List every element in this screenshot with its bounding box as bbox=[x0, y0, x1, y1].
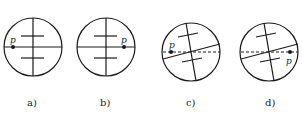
panel-d-point-label: p bbox=[286, 56, 292, 66]
panel-c-caption: c) bbox=[186, 97, 196, 108]
panel-a-point-label: p bbox=[10, 35, 16, 45]
panel-a-caption: a) bbox=[27, 97, 37, 108]
reticle-diagram: p p p p bbox=[0, 0, 302, 123]
panel-b-reticle bbox=[77, 18, 135, 76]
panel-d-point-p bbox=[288, 50, 292, 54]
panel-b-point-p bbox=[122, 45, 126, 49]
panel-c-point-label: p bbox=[169, 40, 175, 50]
panel-a-point-p bbox=[11, 45, 15, 49]
panel-d-caption: d) bbox=[265, 97, 275, 108]
panel-b-point-label: p bbox=[121, 35, 127, 45]
panel-b-caption: b) bbox=[100, 97, 110, 108]
panel-c-point-p bbox=[169, 50, 173, 54]
